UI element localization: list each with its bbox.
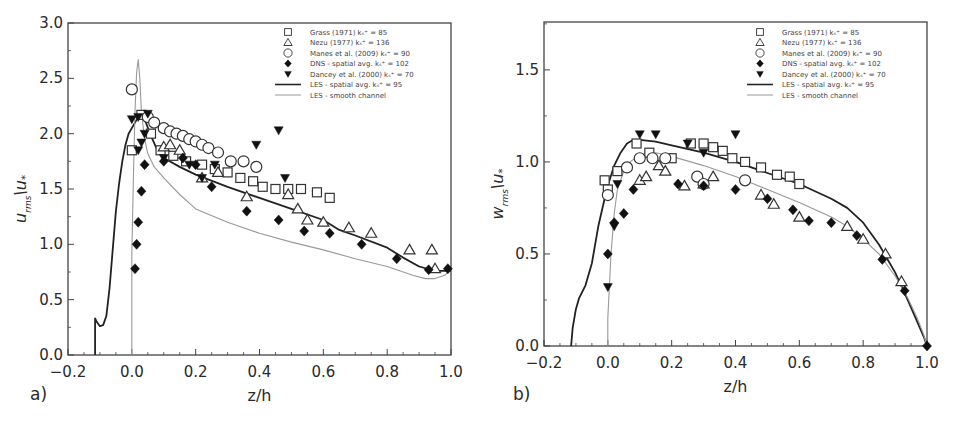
panel-b-w-rms: −0.20.00.20.40.60.81.00.00.51.01.5z/hwrm… bbox=[488, 22, 939, 404]
data-point-square bbox=[325, 193, 334, 202]
series-circle bbox=[126, 84, 261, 172]
legend-entry: Nezu (1977) kₛ⁺ = 136 bbox=[782, 39, 862, 47]
legend-entry: LES - spatial avg. kₛ⁺ = 95 bbox=[782, 81, 874, 89]
x-axis-label: z/h bbox=[724, 377, 748, 396]
data-point-diamond bbox=[274, 215, 283, 225]
data-point-inv-triangle bbox=[610, 223, 619, 231]
data-point-circle bbox=[634, 153, 645, 164]
data-point-inv-triangle bbox=[635, 131, 644, 139]
legend-marker-triangle bbox=[756, 38, 764, 45]
legend: Grass (1971) kₛ⁺ = 85Nezu (1977) kₛ⁺ = 1… bbox=[747, 29, 886, 100]
legend-marker-diamond bbox=[757, 60, 764, 68]
data-point-triangle bbox=[404, 244, 415, 254]
y-axis-label: urms\u* bbox=[11, 175, 33, 223]
legend-marker bbox=[284, 49, 292, 57]
data-point-square bbox=[728, 154, 737, 163]
x-tick-label: 0.6 bbox=[787, 354, 811, 372]
y-tick-label: 2.0 bbox=[39, 125, 63, 143]
legend-marker bbox=[756, 49, 764, 57]
y-tick-label: 1.0 bbox=[39, 235, 63, 253]
legend-marker-inv-triangle bbox=[285, 71, 292, 77]
y-label-sub: rms bbox=[500, 189, 510, 206]
data-point-diamond bbox=[300, 226, 309, 236]
data-point-circle bbox=[740, 175, 751, 186]
data-point-square bbox=[258, 182, 267, 191]
data-point-circle bbox=[213, 147, 224, 158]
x-tick-label: 0.0 bbox=[120, 363, 144, 381]
data-point-triangle bbox=[708, 171, 719, 181]
data-point-triangle bbox=[343, 222, 354, 232]
data-point-triangle bbox=[426, 244, 437, 254]
legend-marker bbox=[285, 29, 292, 36]
x-tick-label: 0.6 bbox=[311, 363, 335, 381]
y-label-den-sub: * bbox=[20, 175, 31, 180]
data-point-square bbox=[795, 180, 804, 189]
data-point-triangle bbox=[842, 221, 853, 231]
data-point-triangle bbox=[641, 171, 652, 181]
legend-entry: LES - spatial avg. kₛ⁺ = 95 bbox=[310, 81, 402, 89]
y-tick-label: 0.5 bbox=[515, 245, 539, 263]
series-diamond bbox=[131, 153, 453, 275]
data-point-circle bbox=[126, 84, 137, 95]
data-point-diamond bbox=[137, 186, 146, 196]
legend-entry: Manes et al. (2009) kₛ⁺ = 90 bbox=[782, 50, 882, 58]
data-point-diamond bbox=[134, 217, 143, 227]
series-triangle bbox=[634, 160, 907, 285]
y-tick-label: 0.0 bbox=[39, 346, 63, 364]
data-point-triangle bbox=[292, 203, 303, 213]
y-label-main: u bbox=[11, 213, 30, 223]
panel-label: a) bbox=[30, 384, 47, 404]
x-tick-label: 0.8 bbox=[375, 363, 399, 381]
legend-marker bbox=[757, 60, 764, 68]
data-point-circle bbox=[251, 161, 262, 172]
data-point-triangle bbox=[174, 145, 185, 155]
legend-entry: LES - smooth channel bbox=[310, 92, 386, 100]
legend-entry: Nezu (1977) kₛ⁺ = 136 bbox=[310, 39, 390, 47]
data-point-circle bbox=[225, 156, 236, 167]
data-point-inv-triangle bbox=[274, 127, 283, 135]
legend-marker bbox=[285, 71, 292, 77]
data-point-circle bbox=[647, 153, 658, 164]
data-point-diamond bbox=[325, 228, 334, 238]
x-tick-label: 0.8 bbox=[851, 354, 875, 372]
series-les-smooth-channel bbox=[132, 60, 451, 356]
data-point-diamond bbox=[424, 265, 433, 275]
series-les-smooth-channel bbox=[608, 153, 927, 346]
x-tick-label: 0.2 bbox=[660, 354, 684, 372]
y-axis-label-text: urms\u* bbox=[11, 175, 33, 223]
y-label-den: \u bbox=[11, 180, 30, 196]
y-label-main: w bbox=[488, 205, 507, 219]
data-point-circle bbox=[238, 156, 249, 167]
x-tick-label: 0.4 bbox=[248, 363, 272, 381]
data-point-square bbox=[718, 146, 727, 155]
legend-entry: DNS - spatial avg. kₛ⁺ = 102 bbox=[310, 60, 409, 68]
x-axis-label: z/h bbox=[248, 386, 272, 405]
data-point-inv-triangle bbox=[613, 181, 622, 189]
legend-entry: Dancey et al. (2000) kₛ⁺ = 70 bbox=[782, 71, 886, 79]
x-tick-label: 0.4 bbox=[724, 354, 748, 372]
data-point-inv-triangle bbox=[137, 139, 146, 147]
y-tick-label: 1.0 bbox=[515, 153, 539, 171]
data-point-square bbox=[699, 139, 708, 148]
panel-label: b) bbox=[513, 384, 530, 404]
data-point-diamond bbox=[357, 239, 366, 249]
y-tick-label: 0.5 bbox=[39, 291, 63, 309]
data-point-square bbox=[709, 143, 718, 152]
legend-entry: LES - smooth channel bbox=[782, 92, 858, 100]
x-tick-label: −0.2 bbox=[50, 363, 86, 381]
legend-marker bbox=[284, 38, 292, 45]
x-tick-label: 1.0 bbox=[915, 354, 939, 372]
data-point-inv-triangle bbox=[252, 141, 261, 149]
data-point-square bbox=[249, 177, 258, 186]
y-tick-label: 3.0 bbox=[39, 14, 63, 32]
y-tick-label: 1.5 bbox=[39, 180, 63, 198]
figure: −0.20.00.20.40.60.81.00.00.51.01.52.02.5… bbox=[0, 0, 957, 445]
data-point-square bbox=[757, 163, 766, 172]
data-point-diamond bbox=[619, 208, 628, 218]
data-point-inv-triangle bbox=[651, 131, 660, 139]
data-point-square bbox=[296, 185, 305, 194]
panel-a-u-rms: −0.20.00.20.40.60.81.00.00.51.01.52.02.5… bbox=[11, 14, 463, 405]
legend-entry: Grass (1971) kₛ⁺ = 85 bbox=[310, 29, 387, 37]
data-point-diamond bbox=[804, 216, 813, 226]
data-point-square bbox=[271, 185, 280, 194]
